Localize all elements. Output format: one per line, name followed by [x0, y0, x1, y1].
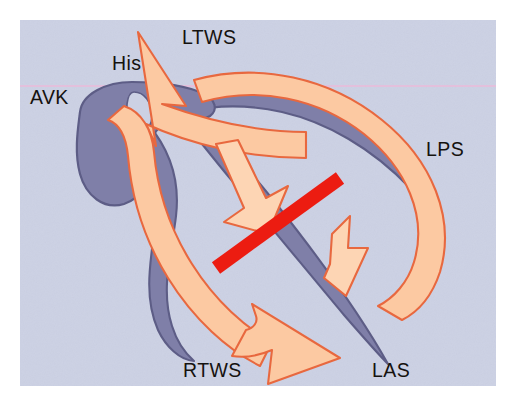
label-lps: LPS	[426, 138, 464, 160]
label-avk: AVK	[30, 86, 69, 108]
label-rtws: RTWS	[183, 359, 242, 381]
diagram-canvas: LTWS His AVK LPS RTWS LAS	[20, 20, 496, 386]
label-las: LAS	[372, 359, 410, 381]
label-his: His	[112, 52, 141, 74]
label-ltws: LTWS	[182, 26, 236, 48]
conduction-circuit-svg: LTWS His AVK LPS RTWS LAS	[20, 20, 496, 386]
figure-container: LTWS His AVK LPS RTWS LAS	[0, 0, 514, 415]
